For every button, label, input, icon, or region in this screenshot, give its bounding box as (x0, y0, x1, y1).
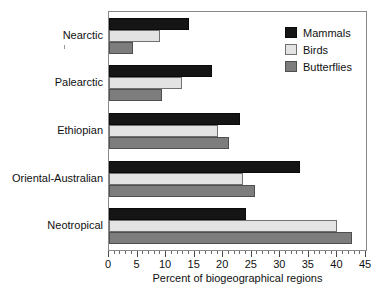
x-tick-label: 5 (125, 258, 149, 270)
bar-palearctic-butterflies (109, 89, 162, 101)
x-tick-major (165, 251, 166, 257)
x-tick-minor (262, 251, 263, 254)
x-tick-minor (205, 251, 206, 254)
x-tick-minor (325, 251, 326, 254)
x-tick-minor (359, 251, 360, 254)
x-tick-minor (331, 251, 332, 254)
x-tick-major (365, 251, 366, 257)
x-tick-minor (234, 251, 235, 254)
x-tick-major (308, 251, 309, 257)
x-tick-label: 10 (153, 258, 177, 270)
bar-nearctic-birds (109, 30, 160, 42)
x-tick-label: 35 (296, 258, 320, 270)
x-tick-label: 40 (324, 258, 348, 270)
x-tick-major (194, 251, 195, 257)
x-tick-major (336, 251, 337, 257)
x-tick-minor (291, 251, 292, 254)
x-tick-minor (148, 251, 149, 254)
x-tick-minor (211, 251, 212, 254)
x-tick-minor (285, 251, 286, 254)
category-axis-labels: NearcticPalearcticEthiopianOriental-Aust… (0, 11, 103, 251)
bar-chart: NearcticPalearcticEthiopianOriental-Aust… (0, 0, 383, 295)
x-tick-label: 0 (96, 258, 120, 270)
bar-oriental-australian-butterflies (109, 185, 255, 197)
x-tick-minor (342, 251, 343, 254)
x-tick-minor (256, 251, 257, 254)
x-tick-major (137, 251, 138, 257)
x-tick-minor (177, 251, 178, 254)
bar-neotropical-butterflies (109, 232, 352, 244)
x-tick-minor (319, 251, 320, 254)
category-label-nearctic: Nearctic (0, 29, 103, 41)
x-tick-label: 15 (182, 258, 206, 270)
x-tick-major (108, 251, 109, 257)
x-tick-minor (119, 251, 120, 254)
legend-item-butterflies[interactable]: Butterflies (285, 59, 377, 74)
x-tick-minor (154, 251, 155, 254)
x-tick-minor (142, 251, 143, 254)
x-tick-minor (217, 251, 218, 254)
x-tick-minor (131, 251, 132, 254)
x-tick-minor (171, 251, 172, 254)
x-tick-minor (268, 251, 269, 254)
x-tick-minor (114, 251, 115, 254)
bar-nearctic-butterflies (109, 42, 133, 54)
legend-item-birds[interactable]: Birds (285, 42, 377, 57)
x-axis-ticks: 051015202530354045 (108, 251, 367, 273)
legend-label: Birds (303, 44, 328, 56)
x-tick-minor (188, 251, 189, 254)
x-tick-minor (199, 251, 200, 254)
x-tick-minor (302, 251, 303, 254)
x-axis-title: Percent of biogeographical regions (108, 272, 367, 285)
bar-ethiopian-mammals (109, 113, 240, 125)
legend-swatch-butterflies-icon (285, 61, 297, 72)
bar-neotropical-birds (109, 220, 337, 232)
x-tick-minor (159, 251, 160, 254)
category-label-oriental-australian: Oriental-Australian (0, 172, 103, 184)
bar-neotropical-mammals (109, 208, 246, 220)
bar-oriental-australian-mammals (109, 161, 300, 173)
legend-swatch-birds-icon (285, 44, 297, 55)
bar-nearctic-mammals (109, 18, 189, 30)
x-tick-minor (274, 251, 275, 254)
x-tick-major (279, 251, 280, 257)
x-tick-minor (182, 251, 183, 254)
legend-label: Butterflies (303, 61, 352, 73)
bar-palearctic-birds (109, 77, 182, 89)
category-label-neotropical: Neotropical (0, 219, 103, 231)
category-label-ethiopian: Ethiopian (0, 124, 103, 136)
legend-item-mammals[interactable]: Mammals (285, 25, 377, 40)
bar-ethiopian-birds (109, 125, 218, 137)
x-tick-minor (228, 251, 229, 254)
x-tick-minor (245, 251, 246, 254)
category-label-palearctic: Palearctic (0, 76, 103, 88)
x-tick-label: 25 (239, 258, 263, 270)
legend-swatch-mammals-icon (285, 27, 297, 38)
x-tick-label: 45 (353, 258, 377, 270)
bar-palearctic-mammals (109, 65, 212, 77)
x-tick-minor (348, 251, 349, 254)
x-tick-minor (354, 251, 355, 254)
bar-ethiopian-butterflies (109, 137, 229, 149)
x-tick-minor (296, 251, 297, 254)
x-tick-minor (314, 251, 315, 254)
bar-oriental-australian-birds (109, 173, 243, 185)
x-tick-minor (125, 251, 126, 254)
x-tick-label: 20 (210, 258, 234, 270)
x-tick-major (222, 251, 223, 257)
legend-label: Mammals (303, 27, 351, 39)
x-tick-minor (239, 251, 240, 254)
x-tick-major (251, 251, 252, 257)
legend: MammalsBirdsButterflies (285, 25, 377, 76)
x-tick-label: 30 (267, 258, 291, 270)
